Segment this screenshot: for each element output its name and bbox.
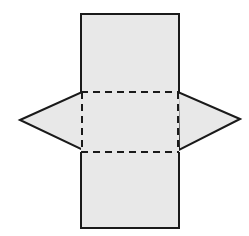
left-triangle-face bbox=[20, 92, 83, 150]
rectangle-fill bbox=[81, 14, 179, 228]
right-triangle-face bbox=[178, 92, 240, 150]
prism-net-diagram bbox=[0, 0, 249, 236]
